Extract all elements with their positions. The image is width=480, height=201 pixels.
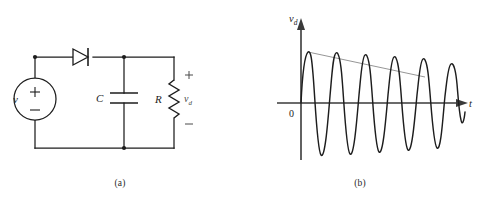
y-axis-label-sub: d [294,18,298,27]
capacitor-icon [110,93,138,103]
caption-panel-b: (b) [240,178,480,188]
output-voltage-sub: d [188,99,192,107]
circuit-diagram-svg: v C R [0,0,240,178]
diode-icon [73,48,88,66]
node-dot-top-left [33,55,37,59]
resistor-label: R [154,93,162,105]
waveform-plot-svg: vd t 0 [240,0,480,178]
node-dot-bottom-mid [122,146,126,150]
output-plus-icon [185,71,193,79]
voltage-source-symbol [14,78,56,120]
y-axis-arrowhead [297,18,305,30]
figure-container: v C R [0,0,480,201]
origin-label: 0 [289,108,294,119]
panel-a-circuit: v C R [0,0,240,201]
y-axis [297,18,305,160]
panel-b-waveform: vd t 0 (b) [240,0,480,201]
caption-panel-a: (a) [0,178,240,188]
x-axis-label: t [469,98,473,109]
node-dot-top-mid [122,55,126,59]
capacitor-label: C [96,92,104,104]
output-voltage-label: vd [184,93,192,107]
resistor-icon [169,80,179,118]
y-axis-label: vd [289,13,298,27]
source-label: v [13,93,18,105]
